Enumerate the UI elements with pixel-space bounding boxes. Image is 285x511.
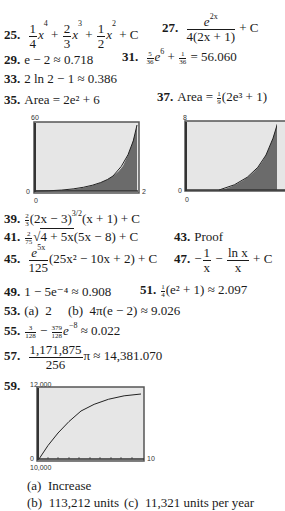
g59-ymin: 0 xyxy=(30,455,34,462)
answer-59: 59. xyxy=(4,379,24,392)
graph-37 xyxy=(184,120,285,193)
answer-59a: (a) Increase xyxy=(27,478,91,494)
answer-33: 33.2 ln 2 − 1 ≈ 0.386 xyxy=(4,72,117,85)
g59-xmin: 10,000 xyxy=(30,464,51,471)
answer-27: 27. e2x4(2x + 1) + C xyxy=(162,15,259,43)
answer-41: 41.275√4 + 5x(5x − 8) + C xyxy=(4,230,138,246)
answer-49: 49.1 − 5e⁻⁴ ≈ 0.908 xyxy=(4,285,111,298)
g35-xmax: 2 xyxy=(142,188,146,195)
answer-45: 45. e5x125(25x² − 10x + 2) + C xyxy=(4,246,157,274)
g37-xmin: 0 xyxy=(185,196,189,203)
answer-39: 39.23(2x − 3)3/2(x + 1) + C xyxy=(4,212,140,228)
answer-59b: (b) 113,212 units xyxy=(27,495,119,511)
g37-ymin: 0 xyxy=(178,187,182,194)
answer-43: 43.Proof xyxy=(174,230,223,243)
g59-xmax: 10 xyxy=(147,455,155,462)
graph-35 xyxy=(33,121,140,194)
answer-37: 37.Area = 19(2e³ + 1) xyxy=(157,90,267,106)
graph-59 xyxy=(36,386,145,462)
answer-47: 47.−1x − ln xx + C xyxy=(174,246,272,274)
g35-xmin: 0 xyxy=(34,197,38,204)
answer-53: 53.(a) 2 (b) 4π(e − 2) ≈ 9.026 xyxy=(4,304,180,317)
answer-35: 35.Area = 2e² + 6 xyxy=(4,93,100,106)
answer-31: 31. 536e6 + 136 = 56.060 xyxy=(122,50,237,66)
answer-51: 51.14(e² + 1) ≈ 2.097 xyxy=(140,283,247,299)
answer-25: 25. 14x4 + 23x3 + 12x2 + C xyxy=(4,22,139,50)
answer-29: 29.e − 2 ≈ 0.718 xyxy=(4,53,93,66)
answer-59c: (c) 11,321 units per year xyxy=(124,495,254,511)
answer-57: 57. 1,171,875256π ≈ 14,381.070 xyxy=(4,343,162,371)
answer-55: 55.3128 − 379128e−8 ≈ 0.022 xyxy=(4,324,120,340)
g35-ymin: 0 xyxy=(26,188,30,195)
g35-ymax: 60 xyxy=(31,114,39,121)
